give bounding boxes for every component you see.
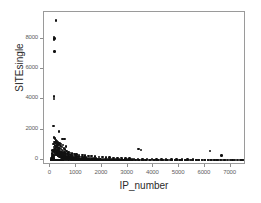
data-points-layer [44,12,244,163]
data-point [220,154,222,156]
data-point [215,159,217,161]
x-tick-mark [230,164,231,167]
y-tick-mark [40,98,43,99]
y-tick-mark [40,129,43,130]
data-point [65,145,67,147]
x-tick-label: 6000 [198,169,211,175]
data-point [209,150,211,152]
data-point [50,157,52,159]
data-point [154,159,156,161]
y-tick-label: 8000 [25,34,38,40]
y-tick-mark [40,159,43,160]
data-point [53,50,55,52]
x-tick-mark [204,164,205,167]
y-tick-mark [40,38,43,39]
y-axis-title: SITEsingle [14,28,25,108]
x-tick-mark [75,164,76,167]
x-tick-label: 5000 [172,169,185,175]
data-point [127,159,129,161]
x-tick-mark [101,164,102,167]
data-point [142,159,144,161]
data-point [166,159,168,161]
x-tick-mark [178,164,179,167]
data-point [171,159,173,161]
x-tick-label: 4000 [146,169,159,175]
x-tick-mark [127,164,128,167]
data-point [63,138,65,140]
data-point [244,159,245,161]
data-point [124,159,126,161]
y-tick-label: 6000 [25,64,38,70]
data-point [58,130,60,132]
scatter-plot-figure: 02000400060008000 0100020003000400050006… [0,0,261,203]
data-point [176,159,178,161]
x-tick-label: 7000 [223,169,236,175]
x-tick-label: 3000 [120,169,133,175]
x-axis-title: IP_number [43,180,245,191]
x-tick-label: 1000 [69,169,82,175]
x-tick-label: 2000 [95,169,108,175]
plot-area [43,11,245,164]
y-tick-label: 2000 [25,125,38,131]
y-tick-label: 4000 [25,94,38,100]
data-point [53,98,55,100]
data-point [139,159,141,161]
x-tick-mark [152,164,153,167]
data-point [150,159,152,161]
data-point [52,125,54,127]
data-point [180,159,182,161]
y-tick-mark [40,68,43,69]
x-tick-mark [49,164,50,167]
data-point [55,19,57,21]
data-point [140,149,142,151]
x-tick-label: 0 [48,169,51,175]
y-tick-label: 0 [35,155,38,161]
